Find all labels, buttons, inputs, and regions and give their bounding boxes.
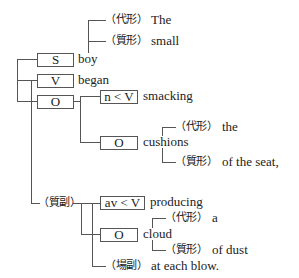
participle-box: av < V <box>100 196 145 210</box>
object-box: O <box>37 95 74 109</box>
modifier-word: of the seat, <box>222 155 279 169</box>
place-adverbial-tag: （場副） <box>105 259 147 273</box>
gerund-object-box: O <box>100 136 138 150</box>
participle-object-word: cloud <box>143 227 172 241</box>
modifier-word: a <box>212 211 218 225</box>
modifier-tag: （代形） <box>105 13 147 27</box>
modifier-word: The <box>151 13 171 27</box>
place-adverbial-word: at each blow. <box>151 259 219 273</box>
modifier-tag: （代形） <box>165 211 207 225</box>
modifier-tag: （質形） <box>165 243 207 257</box>
modifier-tag: （質形） <box>105 34 147 48</box>
modifier-word: of dust <box>212 243 248 257</box>
modifier-tag: （質形） <box>175 155 217 169</box>
gerund-box: n < V <box>100 90 138 104</box>
participle-object-box: O <box>100 228 138 242</box>
sentence-diagram: （代形） The （質形） small S boy V began O n < … <box>0 0 299 278</box>
modifier-word: small <box>151 34 179 48</box>
verb-word: began <box>78 73 109 87</box>
modifier-tag: （代形） <box>175 120 217 134</box>
subject-word: boy <box>78 52 98 66</box>
adverbial-tag: （質副） <box>38 196 80 210</box>
modifier-word: the <box>222 120 238 134</box>
subject-box: S <box>37 53 74 67</box>
participle-word: producing <box>150 195 203 209</box>
gerund-object-word: cushions <box>143 135 189 149</box>
gerund-word: smacking <box>143 89 193 103</box>
verb-box: V <box>37 74 74 88</box>
